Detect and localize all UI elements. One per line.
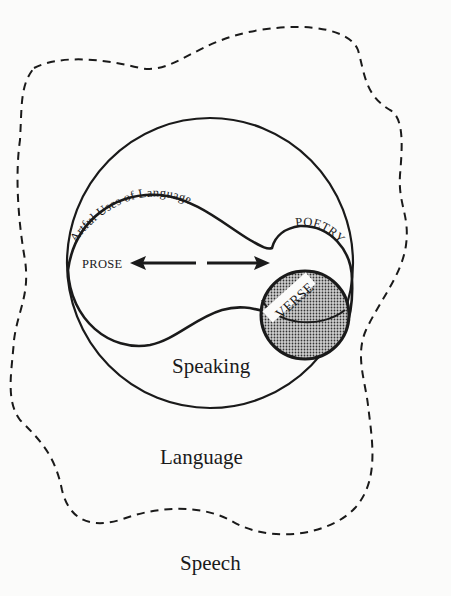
poetry-label: POETRY	[295, 215, 348, 246]
speech-label: Speech	[180, 551, 241, 575]
speaking-label: Speaking	[172, 354, 251, 378]
language-label: Language	[160, 445, 243, 469]
artful-uses-label: Artful Uses of Language	[67, 185, 194, 244]
prose-label: PROSE	[82, 257, 122, 271]
language-diagram: Artful Uses of Language PROSE POETRY VER…	[0, 0, 451, 596]
